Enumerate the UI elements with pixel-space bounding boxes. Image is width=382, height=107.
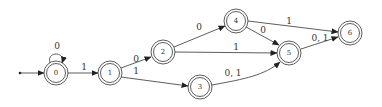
state-label: 2 [161,48,165,56]
automaton-diagram: 0 1 0 1 0 1 0, 1 0 1 0, 1 0 1 [0,0,382,107]
edge-4-5: 0 [246,25,279,45]
edge-2-4: 0 [174,22,225,47]
edge-label: 1 [233,42,239,52]
state-2: 2 [151,40,175,64]
edge-3-5: 0, 1 [212,62,280,85]
state-0: 0 [44,61,68,85]
edge-label: 0, 1 [311,33,328,43]
edge-0-1: 1 [68,62,98,73]
edge-label: 0 [54,41,60,51]
state-5: 5 [277,41,301,65]
start-arrow [19,72,44,75]
edge-label: 0 [260,25,266,35]
edge-1-3: 1 [121,66,188,86]
state-label: 3 [198,83,202,91]
state-label: 5 [287,49,291,57]
edge-label: 1 [286,16,292,26]
edge-label: 0 [196,22,202,32]
state-label: 1 [108,69,112,77]
state-1: 1 [98,61,122,85]
edge-label: 0 [133,54,139,64]
state-label: 6 [348,29,353,37]
state-3: 3 [188,75,212,99]
edge-0-0: 0 [49,41,62,63]
edge-label: 1 [133,66,139,76]
state-4: 4 [224,9,248,33]
edge-label: 1 [81,62,87,72]
state-6: 6 [338,21,362,45]
state-label: 0 [54,69,58,77]
edge-5-6: 0, 1 [301,33,338,49]
edge-2-5: 1 [175,42,277,53]
state-label: 4 [234,17,239,25]
edge-label: 0, 1 [224,68,241,78]
